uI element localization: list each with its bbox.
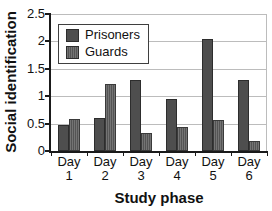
y-tick-label: 2 xyxy=(12,33,45,48)
y-tick xyxy=(45,68,50,70)
x-tick xyxy=(231,153,232,156)
legend-item-guards: Guards xyxy=(66,45,140,59)
y-tick xyxy=(45,40,50,42)
x-tick xyxy=(267,153,268,156)
bar-prisoners-day-1 xyxy=(58,125,69,151)
bar-prisoners-day-3 xyxy=(130,80,141,151)
x-tick-label: Day2 xyxy=(87,155,123,183)
x-axis-title: Study phase xyxy=(51,189,267,206)
x-tick xyxy=(159,153,160,156)
legend: Prisoners Guards xyxy=(58,24,149,64)
y-tick xyxy=(45,13,50,15)
legend-swatch-prisoners-icon xyxy=(66,29,79,42)
legend-item-prisoners: Prisoners xyxy=(66,28,140,42)
y-tick-label: 1.5 xyxy=(12,61,45,76)
y-tick xyxy=(45,150,50,152)
bar-prisoners-day-4 xyxy=(166,99,177,151)
bar-guards-day-6 xyxy=(249,141,260,151)
bar-guards-day-3 xyxy=(141,133,152,151)
y-tick-label: 0 xyxy=(12,143,45,158)
y-tick xyxy=(45,123,50,125)
bar-chart: Social identification Prisoners Guards S… xyxy=(0,0,272,211)
gridline xyxy=(51,69,267,70)
bar-prisoners-day-2 xyxy=(94,118,105,151)
plot-right-border xyxy=(266,14,267,151)
x-tick-label: Day4 xyxy=(159,155,195,183)
x-tick-label: Day5 xyxy=(195,155,231,183)
x-tick-label: Day3 xyxy=(123,155,159,183)
x-tick xyxy=(123,153,124,156)
x-tick xyxy=(87,153,88,156)
gridline xyxy=(51,14,267,15)
bar-guards-day-2 xyxy=(105,84,116,151)
bar-guards-day-1 xyxy=(69,119,80,151)
y-tick-label: 2.5 xyxy=(12,6,45,21)
x-tick xyxy=(51,153,52,156)
bar-guards-day-4 xyxy=(177,127,188,151)
legend-label-guards: Guards xyxy=(85,45,128,59)
x-tick-label: Day1 xyxy=(51,155,87,183)
y-tick-label: 1 xyxy=(12,88,45,103)
gridline xyxy=(51,96,267,97)
bar-prisoners-day-6 xyxy=(238,80,249,151)
x-tick xyxy=(195,153,196,156)
bar-prisoners-day-5 xyxy=(202,39,213,151)
x-tick-label: Day6 xyxy=(231,155,267,183)
legend-label-prisoners: Prisoners xyxy=(85,28,140,42)
bar-guards-day-5 xyxy=(213,120,224,151)
y-tick xyxy=(45,95,50,97)
gridline xyxy=(51,124,267,125)
y-tick-label: 0.5 xyxy=(12,116,45,131)
legend-swatch-guards-icon xyxy=(66,46,79,59)
